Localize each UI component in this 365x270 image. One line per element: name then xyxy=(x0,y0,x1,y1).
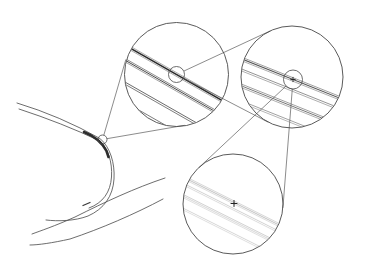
figure-canvas xyxy=(0,0,365,270)
magnified-curve-strand xyxy=(177,191,289,247)
magnified-curve-strand xyxy=(235,82,349,128)
magnified-curve-strand xyxy=(119,41,235,107)
magnified-curve-strand xyxy=(119,58,235,124)
magnified-curve-strand xyxy=(177,180,289,236)
magnified-curve-strand xyxy=(119,43,235,109)
magnified-curve-strand xyxy=(177,172,289,228)
magnified-curve-strand xyxy=(119,98,235,164)
magnifier-upper-right-bands xyxy=(235,55,349,146)
source-focus-circle xyxy=(98,135,107,144)
middle-sweep-curve xyxy=(32,178,165,234)
base-curve-family xyxy=(17,103,165,245)
magnified-curve-strand xyxy=(177,182,289,238)
right-branch-inner-curve xyxy=(89,141,112,209)
magnifier-bottom-bands xyxy=(177,172,289,263)
tangent-source-to-upper-left-a xyxy=(104,59,126,135)
curve-magnification-figure xyxy=(0,0,365,270)
magnified-curve-strand xyxy=(119,78,235,144)
tangent-upper-left-to-upper-right-b xyxy=(184,78,269,122)
magnified-curve-strand xyxy=(119,81,235,147)
upper-branch-inner-curve xyxy=(19,109,100,141)
magnified-curve-strand xyxy=(177,193,289,249)
magnifier-upper-left-bands xyxy=(119,40,235,165)
curve-end-dash xyxy=(83,203,90,206)
magnified-curve-strand xyxy=(177,174,289,230)
magnified-curve-strand xyxy=(177,205,289,261)
magnifier-upper-right-plus-marker xyxy=(290,77,295,82)
tangent-source-to-upper-left-b xyxy=(107,125,185,138)
lower-sweep-curve xyxy=(30,199,163,245)
tangent-upper-right-to-bottom-b xyxy=(283,89,292,208)
right-branch-outer-curve xyxy=(46,139,114,221)
